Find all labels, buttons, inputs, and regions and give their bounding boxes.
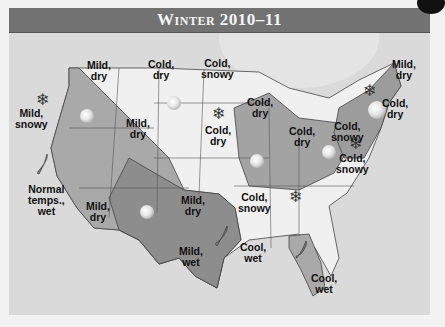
snowflake-icon: ❄ <box>363 81 376 100</box>
region-label-central-rockies: Mild, dry <box>126 118 150 140</box>
region-label-northeast-snowy: Cold, snowy <box>331 121 364 143</box>
title-bar: Winter 2010–11 <box>9 8 430 33</box>
region-label-pacific-northwest: Mild, snowy <box>15 108 48 130</box>
region-label-northern-rockies: Mild, dry <box>87 60 111 82</box>
region-label-southern-plains: Mild, dry <box>181 195 205 217</box>
region-label-mid-atlantic: Cold, snowy <box>336 153 369 175</box>
region-label-florida: Cool, wet <box>311 273 337 295</box>
region-label-tennessee-valley: Cold, snowy <box>238 192 271 214</box>
region-label-southern-new-england: Cold, dry <box>382 98 408 120</box>
region-label-gulf-coast: Cool, wet <box>240 242 266 264</box>
snowflake-icon: ❄ <box>212 104 225 123</box>
region-label-northern-plains: Cold, dry <box>148 59 174 81</box>
region-label-california: Normal temps., wet <box>28 184 65 217</box>
region-label-texas: Mild, wet <box>179 246 203 268</box>
region-label-desert-southwest: Mild, dry <box>86 201 110 223</box>
region-label-great-lakes: Cold, dry <box>247 97 273 119</box>
region-label-upper-midwest: Cold, snowy <box>201 58 234 80</box>
region-label-northern-new-england: Mild, dry <box>392 59 416 81</box>
snowflake-icon: ❄ <box>289 187 302 206</box>
region-label-ohio-valley: Cold, dry <box>289 126 315 148</box>
forecast-map-frame: Winter 2010–11 <box>9 8 430 315</box>
map-title: Winter 2010–11 <box>157 10 282 30</box>
region-label-central-plains: Cold, dry <box>205 125 231 147</box>
